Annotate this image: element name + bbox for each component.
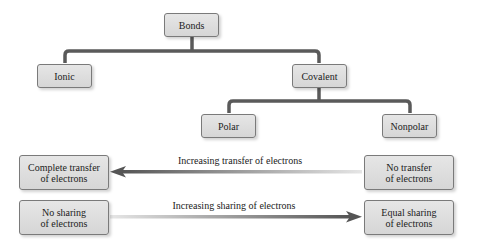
node-nonpolar: Nonpolar <box>382 114 437 138</box>
box-no-transfer-line1: No transfer <box>386 162 431 173</box>
node-polar: Polar <box>201 114 256 138</box>
arrow-sharing-label: Increasing sharing of electrons <box>114 200 354 211</box>
box-no-sharing-line2: of electrons <box>41 218 88 229</box>
node-nonpolar-label: Nonpolar <box>391 121 429 132</box>
arrow-transfer <box>110 166 362 178</box>
connector-covalent-children <box>229 101 410 113</box>
box-complete-transfer-line2: of electrons <box>41 173 88 184</box>
box-equal-sharing: Equal sharing of electrons <box>364 200 454 235</box>
node-bonds: Bonds <box>164 13 219 37</box>
box-no-sharing-line1: No sharing <box>42 207 86 218</box>
box-complete-transfer: Complete transfer of electrons <box>19 155 109 190</box>
bond-classification-diagram: Bonds Ionic Covalent Polar Nonpolar Comp… <box>0 0 479 245</box>
box-no-transfer: No transfer of electrons <box>364 155 454 190</box>
arrow-transfer-label: Increasing transfer of electrons <box>120 155 360 166</box>
node-polar-label: Polar <box>218 121 239 132</box>
node-ionic: Ionic <box>37 64 92 88</box>
box-complete-transfer-line1: Complete transfer <box>28 162 100 173</box>
box-no-transfer-line2: of electrons <box>386 173 433 184</box>
box-no-sharing: No sharing of electrons <box>19 200 109 235</box>
box-equal-sharing-line2: of electrons <box>386 218 433 229</box>
arrow-sharing <box>110 211 362 223</box>
node-covalent: Covalent <box>292 64 347 88</box>
box-equal-sharing-line1: Equal sharing <box>381 207 436 218</box>
node-covalent-label: Covalent <box>301 71 337 82</box>
connector-bonds-children <box>65 51 319 63</box>
node-bonds-label: Bonds <box>179 20 205 31</box>
node-ionic-label: Ionic <box>54 71 75 82</box>
